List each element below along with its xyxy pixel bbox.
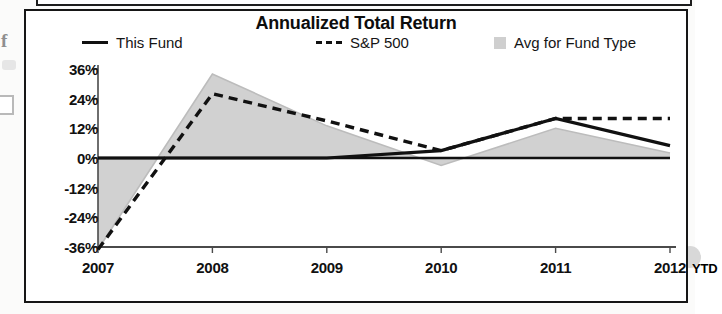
clipped-box-left-artifact: [0, 95, 14, 115]
x-axis-tick-label: 2012: [654, 259, 686, 276]
x-axis-tick-label: 2007: [82, 259, 114, 276]
x-axis-tick-label: 2011: [540, 259, 571, 276]
clipped-box-above-artifact: [36, 0, 692, 6]
x-axis-tick-label: 2008: [196, 259, 228, 276]
plot-area: 36%24%12%0%-12%-24%-36% 2007200820092010…: [26, 11, 686, 301]
partial-letter-artifact: f: [1, 30, 7, 52]
x-axis-tick-label: 2010: [425, 259, 457, 276]
x-axis-tick-label: 2009: [311, 259, 343, 276]
scan-smudge-artifact: [2, 60, 16, 70]
x-axis-ytd-label: YTD: [692, 261, 722, 276]
chart-panel: Annualized Total Return This Fund S&P 50…: [24, 9, 688, 303]
x-axis-tick-labels: 200720082009201020112012YTD: [26, 11, 686, 301]
